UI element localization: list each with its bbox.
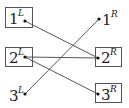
node-dot-3R [96,92,99,95]
node-dot-2L [23,55,26,58]
node-sup-1R: R [110,9,118,19]
node-dot-1R [97,17,100,20]
edge-2L-3R [25,57,98,94]
node-sup-1L: L [17,8,24,18]
edge-3L-1R [25,19,99,94]
diagram-canvas: 1 L 2 L 3 L 1 R 2 R 3 R [0,0,129,108]
node-dot-1L [23,19,26,22]
node-sup-2L: L [17,47,24,57]
node-dot-3L [23,92,26,95]
node-sup-3L: L [17,85,24,95]
node-sup-2R: R [109,47,117,57]
node-dot-2R [96,56,99,59]
edge-1L-2R [25,21,98,58]
bipartite-matching-diagram: 1 L 2 L 3 L 1 R 2 R 3 R [0,0,129,108]
node-sup-3R: R [109,84,117,94]
